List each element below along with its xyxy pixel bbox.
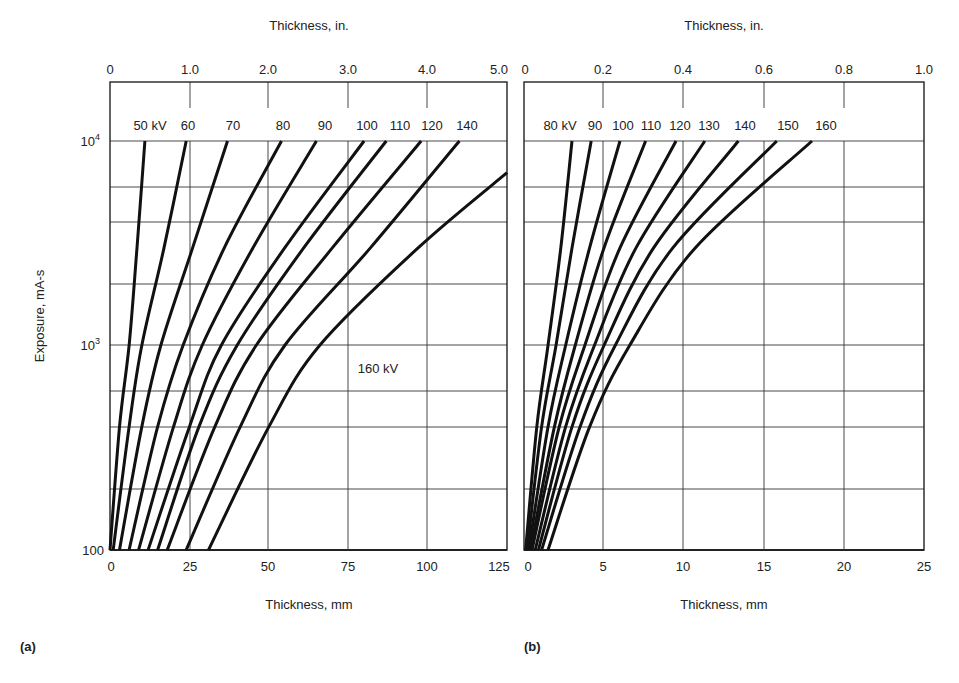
tick: 0 (521, 62, 528, 77)
exposure-chart-figure: Thickness, in. 0 1.0 2.0 3.0 4.0 5.0 (0, 0, 959, 683)
tick: 0 (106, 62, 113, 77)
curve-label-80kv: 80 kV (543, 118, 577, 133)
tick: 1.0 (181, 62, 199, 77)
tick: 0 (524, 559, 531, 574)
curve-label-90: 90 (588, 118, 602, 133)
y-axis-title: Exposure, mA-s (32, 269, 47, 362)
tick: 25 (917, 559, 931, 574)
curve-label-100: 100 (612, 118, 634, 133)
curve-label-160kv: 160 kV (358, 361, 399, 376)
panel-a-top-axis-title: Thickness, in. (269, 18, 348, 33)
y-tick-10e4: 104 (81, 132, 100, 149)
tick: 5.0 (490, 62, 508, 77)
curve-label-120: 120 (669, 118, 691, 133)
panel-b-top-ticks: 0 0.2 0.4 0.6 0.8 1.0 (521, 62, 933, 77)
curve-label-140: 140 (456, 118, 478, 133)
curve-label-60: 60 (181, 118, 195, 133)
tick: 20 (837, 559, 851, 574)
panel-a-bottom-ticks: 0 25 50 75 100 125 (107, 559, 509, 574)
curve-label-120: 120 (421, 118, 443, 133)
curve-label-50kv: 50 kV (133, 118, 167, 133)
tick: 0.2 (594, 62, 612, 77)
curve-label-110: 110 (641, 118, 662, 133)
tick: 2.0 (259, 62, 277, 77)
curve-label-70: 70 (226, 118, 240, 133)
panel-b-top-axis-title: Thickness, in. (684, 18, 763, 33)
tick: 125 (488, 559, 510, 574)
tick: 3.0 (339, 62, 357, 77)
y-tick-100: 100 (82, 543, 104, 558)
tick: 0.6 (755, 62, 773, 77)
curve-label-80: 80 (276, 118, 290, 133)
tick: 100 (416, 559, 438, 574)
tick: 15 (757, 559, 771, 574)
panel-b-curve-labels: 80 kV 90 100 110 120 130 140 150 160 (543, 118, 836, 133)
figure-caption (110, 676, 950, 683)
panel-a-y-ticks: 104 103 100 (81, 132, 104, 558)
curve-label-140: 140 (734, 118, 756, 133)
panel-a-bottom-axis-title: Thickness, mm (265, 597, 352, 612)
tick: 4.0 (418, 62, 436, 77)
panel-a-top-ticks: 0 1.0 2.0 3.0 4.0 5.0 (106, 62, 508, 77)
tick: 5 (599, 559, 606, 574)
tick: 10 (676, 559, 690, 574)
panel-b-bottom-axis-title: Thickness, mm (680, 597, 767, 612)
y-tick-10e3: 103 (81, 336, 100, 353)
tick: 75 (341, 559, 355, 574)
curve-label-110: 110 (390, 118, 411, 133)
curve-label-90: 90 (318, 118, 332, 133)
panel-label-a: (a) (20, 639, 36, 654)
curve-label-160: 160 (815, 118, 837, 133)
tick: 25 (183, 559, 197, 574)
curve-label-100: 100 (356, 118, 378, 133)
tick: 0 (107, 559, 114, 574)
curve-label-150: 150 (777, 118, 799, 133)
panel-b-bottom-ticks: 0 5 10 15 20 25 (524, 559, 931, 574)
tick: 50 (261, 559, 275, 574)
curve-label-130: 130 (698, 118, 720, 133)
panel-label-b: (b) (524, 639, 541, 654)
tick: 0.4 (674, 62, 692, 77)
tick: 1.0 (915, 62, 933, 77)
tick: 0.8 (835, 62, 853, 77)
panel-a: Thickness, in. 0 1.0 2.0 3.0 4.0 5.0 (20, 18, 510, 654)
panel-b: Thickness, in. 0 0.2 0.4 0.6 0.8 1.0 (521, 18, 933, 654)
